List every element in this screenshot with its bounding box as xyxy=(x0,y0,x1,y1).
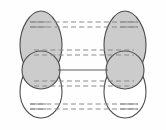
orbital-diagram-figure xyxy=(0,0,166,130)
right-center-circle xyxy=(106,51,144,89)
orbital-diagram-canvas xyxy=(0,0,166,130)
left-center-circle xyxy=(22,51,60,89)
